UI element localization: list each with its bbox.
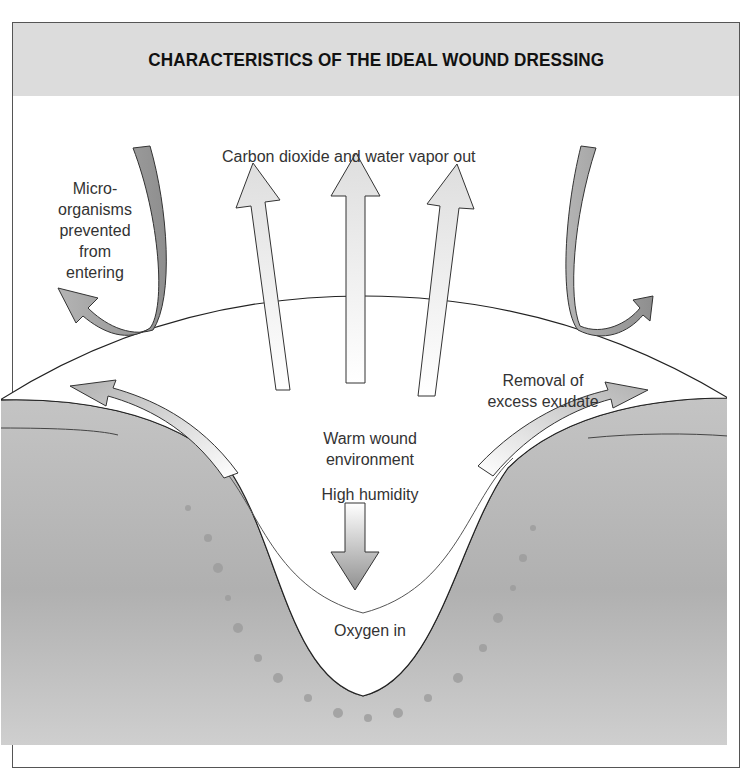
label-warm-line-2: environment — [295, 449, 445, 470]
label-micro-line-1: Micro- — [40, 178, 150, 199]
label-co2-out: Carbon dioxide and water vapor out — [222, 146, 476, 167]
label-micro-line-4: from — [40, 241, 150, 262]
co2-arrows — [236, 153, 474, 396]
label-micro-line-5: entering — [40, 262, 150, 283]
label-warm-line-1: Warm wound — [295, 428, 445, 449]
label-exudate: Removal of excess exudate — [468, 370, 618, 412]
label-oxygen: Oxygen in — [315, 620, 425, 641]
label-microorganisms: Micro- organisms prevented from entering — [40, 178, 150, 283]
label-humidity: High humidity — [295, 484, 445, 505]
label-exudate-line-2: excess exudate — [468, 391, 618, 412]
label-warm: Warm wound environment — [295, 428, 445, 470]
label-micro-line-3: prevented — [40, 220, 150, 241]
label-micro-line-2: organisms — [40, 199, 150, 220]
label-exudate-line-1: Removal of — [468, 370, 618, 391]
